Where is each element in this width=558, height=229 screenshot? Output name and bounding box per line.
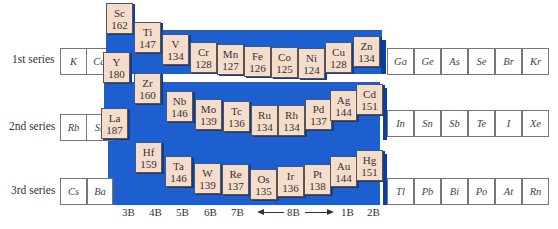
element-Zr: Zr 160 — [134, 73, 161, 104]
element-Co: Co 125 — [271, 47, 298, 78]
arrow-line-left — [262, 212, 284, 213]
element-Au: Au 144 — [330, 156, 357, 187]
radius: 144 — [335, 172, 352, 184]
element-Hf: Hf 159 — [135, 142, 162, 173]
symbol: Tc — [231, 105, 242, 117]
radius: 162 — [111, 19, 128, 31]
radius: 135 — [255, 185, 272, 197]
cell-Pb: Pb — [414, 178, 441, 205]
symbol: Sc — [114, 7, 125, 19]
radius: 134 — [167, 50, 184, 62]
group-label-4B: 4B — [149, 206, 162, 218]
radius: 144 — [335, 106, 352, 118]
symbol: Co — [278, 51, 291, 63]
cell-At: At — [495, 178, 522, 205]
symbol: Pt — [313, 168, 322, 180]
cell-Bi: Bi — [441, 178, 468, 205]
radius: 151 — [361, 166, 378, 178]
cell-As: As — [441, 48, 468, 75]
radius: 124 — [303, 64, 320, 76]
element-Rh: Rh 134 — [278, 105, 305, 136]
element-Y: Y 180 — [103, 52, 130, 83]
symbol: Os — [257, 173, 269, 185]
symbol: Y — [113, 56, 121, 68]
symbol: Nb — [173, 95, 186, 107]
element-W: W 139 — [194, 163, 221, 194]
radius: 139 — [199, 179, 216, 191]
radius: 127 — [222, 60, 239, 72]
element-Ti: Ti 147 — [134, 22, 161, 53]
element-Re: Re 137 — [222, 164, 249, 195]
arrow-right-icon — [327, 209, 334, 215]
cell-Se: Se — [468, 48, 495, 75]
cell-Po: Po — [468, 178, 495, 205]
symbol: Hg — [363, 154, 376, 166]
element-Mn: Mn 127 — [217, 44, 244, 75]
radius: 136 — [228, 117, 245, 129]
element-Ni: Ni 124 — [298, 48, 325, 79]
arrow-line-right — [305, 212, 329, 213]
cell-Tl: Tl — [387, 178, 414, 205]
cell-K: K — [60, 48, 87, 75]
radius: 137 — [227, 180, 244, 192]
symbol: Zn — [360, 40, 372, 52]
symbol: Ag — [337, 94, 350, 106]
element-Sc: Sc 162 — [106, 3, 133, 34]
radius: 151 — [361, 100, 378, 112]
element-Cu: Cu 128 — [325, 42, 352, 73]
radius: 146 — [170, 172, 187, 184]
symbol: Re — [229, 168, 241, 180]
cell-Sb: Sb — [441, 110, 468, 137]
element-Tc: Tc 136 — [223, 101, 250, 132]
radius: 134 — [256, 121, 273, 133]
symbol: Ti — [143, 26, 152, 38]
element-Fe: Fe 126 — [244, 46, 271, 77]
element-Mo: Mo 139 — [195, 99, 222, 130]
element-Hg: Hg 151 — [356, 150, 383, 181]
symbol: La — [109, 112, 121, 124]
radius: 180 — [108, 68, 125, 80]
symbol: Ni — [306, 52, 317, 64]
cell-Cs: Cs — [60, 178, 87, 205]
series-label-3: 3rd series — [11, 184, 55, 196]
radius: 187 — [106, 124, 123, 136]
series-label-2: 2nd series — [9, 120, 55, 132]
cell-Ba: Ba — [87, 178, 113, 205]
element-La: La 187 — [101, 108, 128, 139]
cell-Te: Te — [468, 110, 495, 137]
symbol: Fe — [252, 50, 263, 62]
element-Ag: Ag 144 — [330, 90, 357, 121]
radius: 134 — [283, 121, 300, 133]
element-Pd: Pd 137 — [305, 99, 332, 130]
cell-I: I — [495, 110, 522, 137]
cell-Ga: Ga — [387, 48, 414, 75]
symbol: Mo — [201, 103, 216, 115]
element-Os: Os 135 — [250, 169, 277, 200]
element-Pt: Pt 138 — [304, 164, 331, 195]
symbol: Cr — [198, 46, 209, 58]
symbol: Ir — [287, 170, 294, 182]
radius: 137 — [310, 115, 327, 127]
element-Cr: Cr 128 — [190, 42, 217, 73]
radius: 160 — [139, 89, 156, 101]
group-label-8B: 8B — [287, 206, 300, 218]
symbol: Au — [337, 160, 350, 172]
cell-Br: Br — [495, 48, 522, 75]
bar-side-Zn — [381, 40, 386, 74]
element-V: V 134 — [162, 34, 189, 65]
symbol: V — [172, 38, 180, 50]
series-label-1: 1st series — [12, 53, 54, 65]
symbol: Rh — [285, 109, 298, 121]
cell-In: In — [387, 110, 414, 137]
group-label-2B: 2B — [367, 206, 380, 218]
radius: 126 — [249, 62, 266, 74]
cell-Rn: Rn — [522, 178, 549, 205]
symbol: Zr — [142, 77, 152, 89]
element-Nb: Nb 146 — [166, 91, 193, 122]
radius: 159 — [140, 158, 157, 170]
cell-Rb: Rb — [60, 114, 87, 141]
bar-Ti — [133, 50, 161, 74]
cell-Kr: Kr — [522, 48, 549, 75]
cell-Sn: Sn — [414, 110, 441, 137]
element-Ru: Ru 134 — [251, 105, 278, 136]
